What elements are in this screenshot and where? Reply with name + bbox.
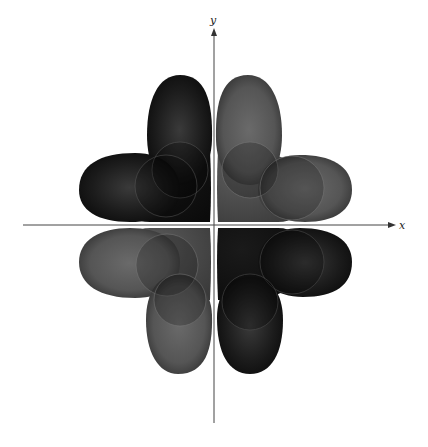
overlap-sphere-upper-left-side bbox=[135, 155, 197, 217]
overlap-sphere-upper-right-side bbox=[260, 156, 324, 220]
lobe-group-upper-left bbox=[79, 75, 212, 222]
y-axis-label: y bbox=[209, 14, 217, 27]
axes: x y bbox=[23, 14, 406, 423]
lobe-group-upper-right bbox=[216, 75, 352, 222]
x-axis-label: x bbox=[399, 219, 406, 232]
x-axis-arrow-icon bbox=[388, 222, 396, 228]
overlap-sphere-lower-right-bottom bbox=[222, 274, 278, 330]
overlap-sphere-lower-left-bottom bbox=[154, 274, 206, 326]
lobe-group-lower-right bbox=[217, 228, 352, 374]
lobe-group-lower-left bbox=[79, 228, 212, 374]
y-axis-arrow-icon bbox=[211, 28, 217, 36]
orbital-diagram: x y bbox=[0, 0, 428, 447]
